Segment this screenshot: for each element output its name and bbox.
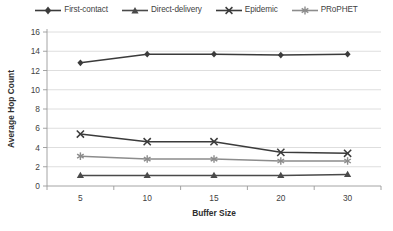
legend-label-first-contact: First-contact	[64, 5, 108, 15]
y-tick-label: 6	[35, 123, 40, 133]
x-tick-label: 30	[343, 193, 353, 203]
plot-canvas: 0246810121416 510152030 Buffer SizeAvera…	[0, 18, 393, 231]
y-tick-label: 16	[31, 27, 41, 37]
data-point-diamond	[278, 52, 284, 59]
legend-label-direct-delivery: Direct-delivery	[151, 5, 202, 15]
series-first-contact	[77, 51, 350, 66]
y-tick-label: 12	[31, 66, 41, 76]
x-axis-title: Buffer Size	[192, 208, 236, 218]
legend-item-epidemic[interactable]: Epidemic	[216, 5, 278, 16]
legend-marker-asterisk-icon	[292, 5, 318, 16]
data-point-diamond	[345, 51, 351, 58]
x-tick-label: 10	[143, 193, 153, 203]
legend-marker-triangle-icon	[122, 5, 148, 16]
legend-label-prophet: PRoPHET	[321, 5, 358, 15]
data-series-group	[77, 51, 351, 178]
legend-label-epidemic: Epidemic	[245, 5, 278, 15]
axis-titles: Buffer SizeAverage Hop Count	[6, 70, 236, 218]
series-line	[80, 134, 347, 153]
y-tick-label: 2	[35, 162, 40, 172]
x-tick-label: 20	[276, 193, 286, 203]
y-axis: 0246810121416	[31, 27, 47, 191]
y-tick-label: 10	[31, 85, 41, 95]
y-tick-label: 14	[31, 46, 41, 56]
series-prophet	[77, 152, 351, 164]
chart-legend: First-contact Direct-delivery Epidemic	[0, 2, 393, 18]
legend-item-first-contact[interactable]: First-contact	[35, 5, 108, 16]
series-epidemic	[77, 130, 351, 156]
y-tick-label: 8	[35, 104, 40, 114]
legend-marker-cross-x-icon	[216, 5, 242, 16]
legend-item-prophet[interactable]: PRoPHET	[292, 5, 358, 16]
y-axis-title: Average Hop Count	[6, 70, 16, 148]
plot-area: 0246810121416 510152030 Buffer SizeAvera…	[0, 18, 393, 231]
line-chart: First-contact Direct-delivery Epidemic	[0, 0, 393, 231]
legend-item-direct-delivery[interactable]: Direct-delivery	[122, 5, 202, 16]
y-tick-label: 4	[35, 143, 40, 153]
data-point-diamond	[144, 51, 150, 58]
series-direct-delivery	[77, 171, 351, 178]
x-axis: 510152030	[47, 186, 381, 203]
data-point-diamond	[77, 59, 83, 66]
legend-marker-diamond-icon	[35, 5, 61, 16]
y-tick-label: 0	[35, 181, 40, 191]
data-point-diamond	[211, 51, 217, 58]
x-tick-label: 5	[78, 193, 83, 203]
x-tick-label: 15	[209, 193, 219, 203]
